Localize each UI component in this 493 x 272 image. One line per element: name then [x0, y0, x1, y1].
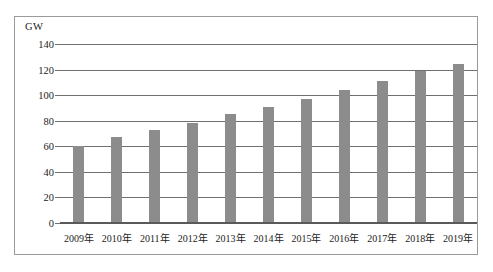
y-axis-unit-label: GW: [25, 21, 43, 32]
x-axis-category-label: 2010年: [102, 230, 132, 245]
y-axis-tick-label: 140: [38, 39, 54, 50]
y-axis-tick-label: 0: [49, 218, 54, 229]
bar: [225, 114, 236, 223]
y-axis-tick-label: 80: [44, 115, 55, 126]
bar-column: [339, 44, 350, 223]
bar: [339, 90, 350, 223]
x-axis-category-label: 2009年: [64, 230, 94, 245]
chart-figure: GW 020406080100120140 2009年2010年2011年201…: [14, 16, 478, 255]
y-axis-tick-label: 60: [44, 141, 55, 152]
x-axis-category-label: 2019年: [443, 230, 473, 245]
bar-column: [453, 44, 464, 223]
bar: [111, 137, 122, 223]
bar: [73, 146, 84, 223]
y-axis-tick-label: 20: [44, 192, 55, 203]
x-axis-category-label: 2016年: [329, 230, 359, 245]
plot-area: 020406080100120140 2009年2010年2011年2012年2…: [60, 44, 477, 223]
bar: [149, 130, 160, 223]
bar: [453, 64, 464, 223]
x-axis-category-label: 2011年: [140, 230, 170, 245]
bar: [415, 71, 426, 223]
x-axis-line: [60, 222, 477, 223]
x-axis-category-label: 2018年: [405, 230, 435, 245]
bar: [377, 81, 388, 223]
bar: [187, 123, 198, 223]
y-axis-tick-label: 120: [38, 64, 54, 75]
x-axis-category-label: 2012年: [178, 230, 208, 245]
bar-series: [60, 44, 477, 223]
y-axis-tick-mark: [55, 223, 60, 224]
x-axis-category-label: 2017年: [367, 230, 397, 245]
bar-column: [263, 44, 274, 223]
bar: [301, 99, 312, 223]
bar-column: [301, 44, 312, 223]
y-axis-tick-label: 100: [38, 90, 54, 101]
bar-column: [111, 44, 122, 223]
bar-column: [73, 44, 84, 223]
bar-column: [149, 44, 160, 223]
y-axis-tick-label: 40: [44, 166, 55, 177]
bar: [263, 107, 274, 223]
gridline: [60, 223, 477, 224]
x-axis-category-label: 2013年: [216, 230, 246, 245]
x-axis-category-label: 2014年: [254, 230, 284, 245]
bar-column: [415, 44, 426, 223]
x-axis-category-label: 2015年: [291, 230, 321, 245]
bar-column: [225, 44, 236, 223]
bar-column: [377, 44, 388, 223]
bar-column: [187, 44, 198, 223]
